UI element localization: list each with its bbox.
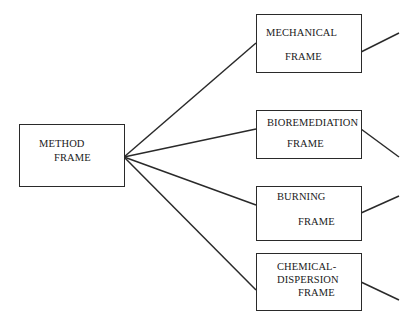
node-method-frame: METHOD FRAME xyxy=(19,124,125,187)
node-label-line1: MECHANICAL xyxy=(266,27,337,38)
edge-burning-outgoing xyxy=(361,196,399,213)
node-label-line2: DISPERSION xyxy=(277,274,339,285)
node-label-line2: FRAME xyxy=(298,216,335,227)
node-burning-frame: BURNING FRAME xyxy=(256,186,362,241)
edge-mechanical-outgoing xyxy=(361,33,399,52)
edge-method-to-bioremediation xyxy=(124,129,256,157)
edge-bioremediation-outgoing xyxy=(361,129,399,157)
node-mechanical-frame: MECHANICAL FRAME xyxy=(256,14,362,73)
node-label-line3: FRAME xyxy=(298,287,335,298)
edge-method-to-chemical-dispersion xyxy=(124,157,256,290)
node-label-line1: METHOD xyxy=(39,138,85,149)
node-label-line2: FRAME xyxy=(285,51,322,62)
node-label-line2: FRAME xyxy=(54,152,91,163)
node-label-line1: BURNING xyxy=(277,191,326,202)
edge-method-to-mechanical xyxy=(124,43,256,157)
edge-chemical-dispersion-outgoing xyxy=(361,282,399,300)
node-bioremediation-frame: BIOREMEDIATION FRAME xyxy=(256,110,362,159)
node-label-line1: BIOREMEDIATION xyxy=(267,117,358,128)
node-label-line1: CHEMICAL- xyxy=(277,261,336,272)
node-label-line2: FRAME xyxy=(287,138,324,149)
node-chemical-dispersion-frame: CHEMICAL- DISPERSION FRAME xyxy=(256,253,362,311)
edge-method-to-burning xyxy=(124,157,256,205)
